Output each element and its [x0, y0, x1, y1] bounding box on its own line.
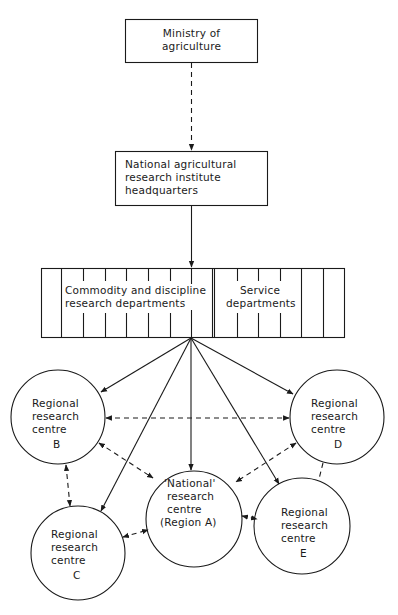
centre-b-line2: research — [32, 410, 79, 423]
link-d-e — [319, 463, 323, 479]
service-departments-line2: departments — [226, 297, 294, 310]
link-c-a — [123, 530, 148, 537]
centre-b-line1: Regional — [32, 397, 79, 410]
centre-d-line3: centre — [311, 423, 358, 436]
centre-d-line2: research — [311, 410, 358, 423]
research-departments-label: Commodity and discipline research depart… — [64, 284, 207, 310]
link-b-c — [66, 465, 70, 506]
centre-a-line2: research — [164, 490, 217, 503]
ministry-label-line2: agriculture — [125, 40, 258, 53]
centre-e-line3: centre — [281, 532, 328, 545]
centre-b-line3: centre — [32, 423, 79, 436]
centre-e-line1: Regional — [281, 506, 328, 519]
research-departments-line2: research departments — [65, 297, 206, 310]
centre-a-line3: centre — [164, 503, 217, 516]
centre-c-label: Regional research centre C — [51, 528, 98, 582]
research-departments-line1: Commodity and discipline — [65, 284, 206, 297]
centre-b-label: Regional research centre B — [32, 397, 79, 451]
headquarters-label-line3: headquarters — [125, 184, 236, 197]
headquarters-label: National agricultural research institute… — [125, 158, 236, 197]
fan-to-d-arrow — [191, 338, 293, 394]
centre-e-letter: E — [281, 547, 328, 560]
centre-d-label: Regional research centre D — [311, 397, 358, 451]
centre-c-line1: Regional — [51, 528, 98, 541]
centre-e-line2: research — [281, 519, 328, 532]
centre-d-line1: Regional — [311, 397, 358, 410]
headquarters-label-line2: research institute — [125, 171, 236, 184]
centre-c-line3: centre — [51, 554, 98, 567]
fan-to-e-arrow — [191, 338, 279, 484]
service-departments-line1: Service — [226, 284, 294, 297]
centre-c-line2: research — [51, 541, 98, 554]
centre-d-letter: D — [311, 438, 358, 451]
centre-b-letter: B — [32, 438, 79, 451]
headquarters-label-line1: National agricultural — [125, 158, 236, 171]
centre-a-line4: (Region A) — [160, 516, 217, 529]
centre-e-label: Regional research centre E — [281, 506, 328, 560]
ministry-label: Ministry of agriculture — [125, 27, 258, 53]
centre-a-label: 'National' research centre (Region A) — [164, 477, 217, 529]
centre-c-letter: C — [51, 569, 98, 582]
link-b-a — [99, 443, 153, 478]
ministry-label-line1: Ministry of — [125, 27, 258, 40]
service-departments-label: Service departments — [226, 284, 294, 310]
centre-a-line1: 'National' — [164, 477, 217, 490]
